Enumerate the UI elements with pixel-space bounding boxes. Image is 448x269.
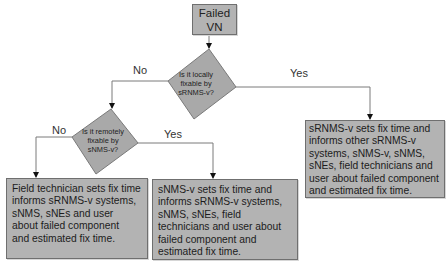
arrowhead-icon	[109, 103, 115, 109]
start-node-failed-vn: Failed VN	[192, 4, 237, 35]
decision2-no-label: No	[52, 124, 66, 136]
decision1-line: fixable by	[168, 79, 224, 88]
decision2-yes-label: Yes	[164, 128, 182, 140]
outcome-remote-line: informs sRNMS-v systems,	[158, 196, 297, 208]
outcome-remote-line: estimated fix time.	[158, 246, 297, 258]
outcome-field-line: sNMS, sNEs and user	[12, 208, 147, 220]
start-label-line1: Failed	[193, 7, 236, 21]
decision1-yes-label: Yes	[290, 67, 308, 79]
arrowhead-icon	[206, 43, 212, 49]
outcome-local-fix-box: sRNMS-v sets fix time and informs other …	[305, 120, 445, 198]
outcome-field-line: and estimated fix time.	[12, 233, 147, 245]
outcome-field-line: about failed component	[12, 220, 147, 232]
decision2-question: Is it remotely fixable by sNMS-v?	[75, 127, 131, 155]
outcome-local-line: and estimated fix time.	[309, 185, 444, 197]
outcome-local-line: systems, sNMS-v, sNMS,	[309, 148, 444, 160]
decision1-no-label: No	[133, 64, 147, 76]
outcome-local-line: sRNMS-v sets fix time and	[309, 123, 444, 135]
connector-decision1-yes	[236, 87, 370, 119]
decision1-question: Is it locally fixable by sRNMS-v?	[168, 70, 224, 98]
connector-decision1-no	[112, 81, 168, 108]
outcome-local-line: user about failed component	[309, 173, 444, 185]
start-label-line2: VN	[193, 21, 236, 35]
outcome-field-line: Field technician sets fix time	[12, 183, 147, 195]
outcome-remote-line: sNMS-v sets fix time and	[158, 184, 297, 196]
connector-decision2-no	[36, 137, 72, 177]
outcome-remote-line: technicians and user about	[158, 221, 297, 233]
outcome-field-line: informs sRNMS-v systems,	[12, 195, 147, 207]
outcome-remote-fix-box: sNMS-v sets fix time and informs sRNMS-v…	[152, 179, 298, 260]
decision2-line: Is it remotely	[75, 127, 131, 136]
outcome-field-technician-box: Field technician sets fix time informs s…	[6, 178, 148, 259]
decision2-line: sNMS-v?	[75, 145, 131, 154]
outcome-remote-line: sNMS, sNEs, field	[158, 209, 297, 221]
outcome-remote-line: failed component and	[158, 234, 297, 246]
connector-decision2-yes	[138, 143, 213, 178]
outcome-local-line: informs other sRNMS-v	[309, 135, 444, 147]
flowchart-canvas: Failed VN Is it locally fixable by sRNMS…	[0, 0, 448, 269]
outcome-local-line: sNEs, field technicians and	[309, 160, 444, 172]
decision1-line: Is it locally	[168, 70, 224, 79]
decision2-line: fixable by	[75, 136, 131, 145]
decision1-line: sRNMS-v?	[168, 88, 224, 97]
